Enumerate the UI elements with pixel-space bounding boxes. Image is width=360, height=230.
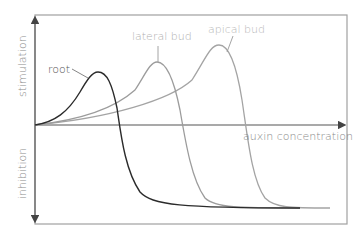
auxin-response-diagram: root lateral bud apical bud auxin concen… — [0, 0, 360, 230]
root-label: root — [48, 63, 70, 76]
lateral-bud-label: lateral bud — [132, 30, 192, 43]
y-axis-label-inhibition: inhibition — [16, 148, 29, 199]
apical-bud-leader-line — [227, 36, 233, 52]
x-axis-label: auxin concentration — [243, 130, 353, 143]
root-leader-line — [72, 69, 88, 78]
apical-bud-label: apical bud — [208, 23, 265, 36]
y-axis-label-stimulation: stimulation — [16, 35, 29, 97]
